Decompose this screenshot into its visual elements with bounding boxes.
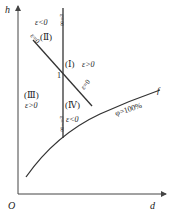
curve-label: φ=100%: [114, 101, 144, 118]
region-4-numeral: (Ⅳ): [65, 100, 80, 110]
diagonal-bottom-label: ε=0: [79, 78, 92, 92]
region-1-numeral: (Ⅰ): [65, 59, 75, 69]
origin-label: O: [8, 200, 15, 211]
psychrometric-diagram: h d O ε=∞ ε=−∞ ε=0 ε=0 1 ε<0 (Ⅱ) (Ⅰ) ε>0…: [0, 0, 170, 213]
intersection-label: 1: [57, 71, 61, 80]
region-2-condition: ε<0: [35, 18, 48, 27]
region-4-condition: ε<0: [66, 115, 79, 124]
region-3-condition: ε>0: [25, 101, 38, 110]
vertical-line-top-label: ε=∞: [58, 14, 66, 26]
curve-end-label: f: [157, 85, 161, 95]
region-3-numeral: (Ⅲ): [24, 90, 39, 100]
x-axis-label: d: [150, 200, 156, 211]
region-1-condition: ε>0: [82, 60, 95, 69]
y-axis-label: h: [5, 4, 10, 15]
region-2-numeral: (Ⅱ): [40, 32, 52, 42]
vertical-line-bottom-label: ε=−∞: [58, 116, 66, 132]
